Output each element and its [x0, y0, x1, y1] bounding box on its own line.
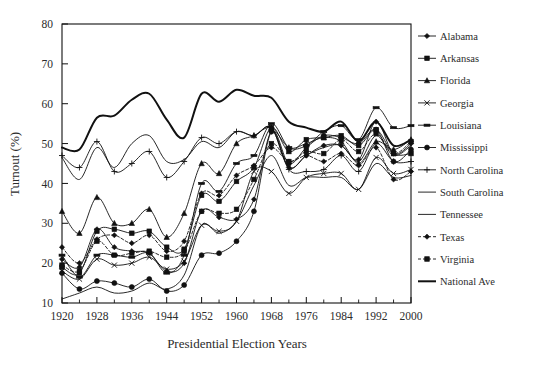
marker-10-18 — [374, 131, 379, 136]
marker-10-0 — [60, 263, 65, 268]
x-tick-label-1928: 1928 — [85, 310, 108, 322]
y-tick-label-80: 80 — [42, 18, 54, 30]
legend-label-5: Mississippi — [440, 142, 488, 153]
marker-5-9 — [217, 251, 222, 256]
marker-10-7 — [182, 249, 187, 254]
x-tick-label-1944: 1944 — [155, 310, 178, 322]
chart-canvas: 1920192819361944195219601968197619841992… — [0, 0, 545, 371]
legend-marker-10 — [425, 257, 430, 262]
x-tick-label-1952: 1952 — [190, 310, 213, 322]
marker-10-1 — [77, 269, 82, 274]
marker-10-4 — [130, 251, 135, 256]
marker-4-0 — [59, 254, 65, 256]
marker-1-4 — [130, 231, 135, 236]
x-axis-tick-labels: 1920192819361944195219601968197619841992… — [51, 310, 423, 322]
legend-label-10: Virginia — [440, 254, 475, 265]
legend-label-0: Alabama — [440, 31, 478, 42]
y-tick-label-50: 50 — [42, 138, 54, 150]
y-tick-label-30: 30 — [42, 217, 54, 229]
marker-10-19 — [391, 151, 396, 156]
marker-4-4 — [129, 256, 135, 258]
legend-marker-5 — [425, 145, 430, 150]
legend-label-1: Arkansas — [440, 53, 479, 64]
marker-4-18 — [373, 107, 379, 109]
x-tick-label-1984: 1984 — [330, 310, 353, 322]
marker-1-2 — [95, 229, 100, 234]
marker-10-12 — [269, 141, 274, 146]
marker-4-12 — [268, 123, 274, 125]
marker-5-3 — [112, 281, 117, 286]
legend-label-4: Louisiana — [440, 120, 482, 131]
x-tick-label-1936: 1936 — [120, 310, 143, 322]
marker-5-5 — [147, 277, 152, 282]
y-tick-label-10: 10 — [42, 297, 54, 309]
legend-marker-4 — [424, 124, 430, 126]
marker-4-7 — [181, 254, 187, 256]
legend-label-7: South Carolina — [440, 187, 504, 198]
marker-5-4 — [129, 285, 134, 290]
marker-10-6 — [164, 255, 169, 260]
marker-5-7 — [182, 283, 187, 288]
x-tick-label-1992: 1992 — [365, 310, 388, 322]
marker-4-19 — [391, 127, 397, 129]
marker-10-8 — [199, 209, 204, 214]
y-tick-label-40: 40 — [42, 178, 54, 190]
marker-5-8 — [199, 253, 204, 258]
x-axis-title: Presidential Election Years — [167, 336, 307, 351]
y-tick-label-60: 60 — [42, 98, 54, 110]
x-tick-label-1976: 1976 — [295, 310, 318, 322]
marker-10-14 — [304, 149, 309, 154]
marker-4-6 — [164, 272, 170, 274]
marker-10-2 — [95, 239, 100, 244]
marker-10-10 — [234, 207, 239, 212]
marker-10-13 — [287, 159, 292, 164]
x-tick-label-1968: 1968 — [260, 310, 283, 322]
marker-4-8 — [199, 182, 205, 184]
marker-5-11 — [251, 209, 256, 214]
marker-4-20 — [408, 125, 414, 127]
marker-4-16 — [338, 125, 344, 127]
marker-10-15 — [321, 151, 326, 156]
marker-5-1 — [77, 287, 82, 292]
x-tick-label-2000: 2000 — [400, 310, 423, 322]
marker-5-15 — [321, 133, 326, 138]
marker-10-3 — [112, 253, 117, 258]
legend-label-6: North Carolina — [440, 165, 504, 176]
x-tick-label-1960: 1960 — [225, 310, 248, 322]
y-axis-title: Turnout (%) — [7, 132, 22, 196]
marker-1-3 — [112, 227, 117, 232]
marker-10-11 — [252, 177, 257, 182]
marker-5-10 — [234, 239, 239, 244]
marker-1-10 — [234, 179, 239, 184]
marker-5-20 — [409, 147, 414, 152]
legend-label-9: Texas — [440, 232, 464, 243]
marker-5-0 — [60, 271, 65, 276]
turnout-line-chart: 1920192819361944195219601968197619841992… — [0, 0, 545, 371]
marker-4-10 — [234, 162, 240, 164]
legend-label-2: Florida — [440, 75, 471, 86]
marker-10-9 — [217, 211, 222, 216]
marker-10-17 — [356, 149, 361, 154]
marker-4-11 — [251, 154, 257, 156]
marker-5-2 — [94, 279, 99, 284]
marker-4-2 — [94, 254, 100, 256]
legend-marker-1 — [425, 56, 430, 61]
marker-4-13 — [286, 146, 292, 148]
marker-4-1 — [76, 276, 82, 278]
legend-label-3: Georgia — [440, 98, 474, 109]
legend-label-8: Tennessee — [440, 209, 483, 220]
marker-1-9 — [217, 199, 222, 204]
y-tick-label-70: 70 — [42, 58, 54, 70]
legend-label-11: National Ave — [440, 276, 495, 287]
marker-10-16 — [339, 137, 344, 142]
y-tick-label-20: 20 — [42, 257, 54, 269]
marker-10-5 — [147, 249, 152, 254]
marker-4-9 — [216, 190, 222, 192]
x-tick-label-1920: 1920 — [51, 310, 74, 322]
